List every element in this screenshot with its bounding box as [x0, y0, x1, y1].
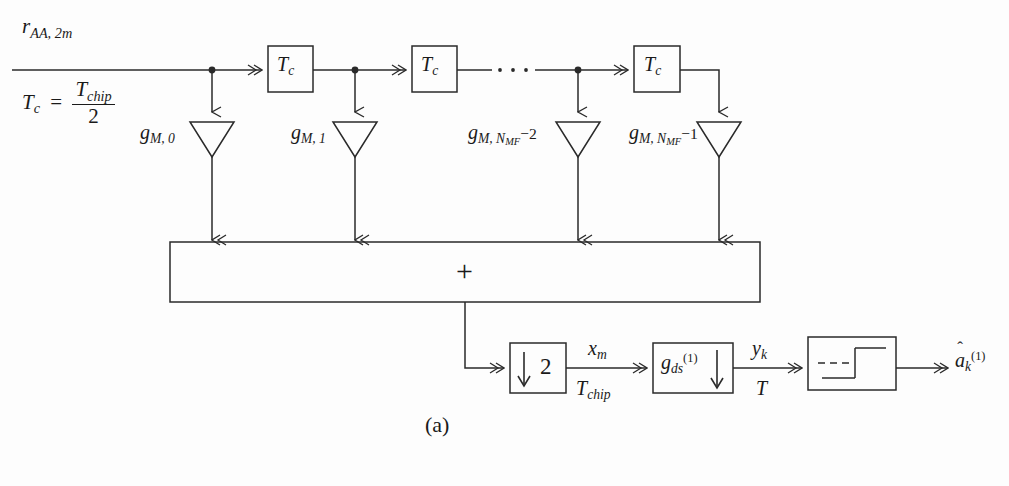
chip-rate-relation: Tc = Tchip 2 [22, 80, 115, 128]
gain-triangle-2[interactable] [556, 122, 600, 157]
decision-output-label: ˆak(1) [955, 350, 986, 374]
block-diagram-svg [0, 0, 1009, 486]
gain-triangle-1[interactable] [333, 122, 377, 157]
gain-triangle-0[interactable] [190, 122, 234, 157]
downsample-factor-label: 2 [540, 355, 552, 378]
tap-gain-label-1: gM, 1 [291, 122, 326, 146]
figure-canvas: rAA, 2m Tc = Tchip 2 Tc Tc Tc gM, 0 gM, … [0, 0, 1009, 486]
delay-block-2-label: Tc [421, 54, 438, 78]
tap-gain-label-3: gM, NMF−1 [629, 122, 698, 147]
tap-gain-label-0: gM, 0 [140, 122, 175, 146]
step-function-icon [818, 348, 886, 378]
downsampler-block[interactable] [510, 343, 566, 393]
last-tap-feed [680, 70, 719, 112]
summer-output-path [465, 302, 504, 368]
xm-signal-label: xm [588, 338, 607, 362]
tchip-rate-label: Tchip [576, 378, 611, 402]
symbol-rate-label: T [756, 378, 767, 398]
downsample-arrow-icon [518, 352, 530, 386]
input-signal-label: rAA, 2m [22, 16, 72, 40]
gain-triangle-3[interactable] [697, 122, 741, 157]
despread-arrow-icon [711, 350, 723, 388]
ellipsis-dots [498, 68, 528, 72]
tap-gain-label-2: gM, NMF−2 [468, 122, 537, 147]
summer-plus-symbol: + [456, 256, 473, 286]
delay-block-1-label: Tc [277, 54, 294, 78]
figure-caption: (a) [425, 412, 449, 438]
despreader-label: gds(1) [661, 352, 698, 376]
delay-block-3-label: Tc [644, 54, 661, 78]
yk-signal-label: yk [752, 338, 767, 362]
